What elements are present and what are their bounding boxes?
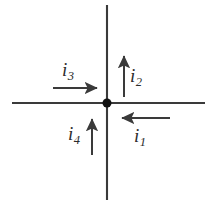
current-label-i2: i2 <box>130 66 142 85</box>
current-symbol-i4: i <box>68 123 73 144</box>
current-subscript-i2: 2 <box>136 75 142 89</box>
current-subscript-i1: 1 <box>140 135 146 149</box>
current-subscript-i4: 4 <box>74 133 80 147</box>
circuit-svg <box>0 0 214 206</box>
current-symbol-i1: i <box>134 125 139 146</box>
current-label-i1: i1 <box>134 126 146 145</box>
current-label-i4: i4 <box>68 124 80 143</box>
current-symbol-i2: i <box>130 65 135 86</box>
current-subscript-i3: 3 <box>68 69 74 83</box>
current-label-i3: i3 <box>62 60 74 79</box>
junction-node <box>103 99 112 108</box>
current-symbol-i3: i <box>62 59 67 80</box>
current-junction-figure: i3 i2 i1 i4 <box>0 0 214 206</box>
